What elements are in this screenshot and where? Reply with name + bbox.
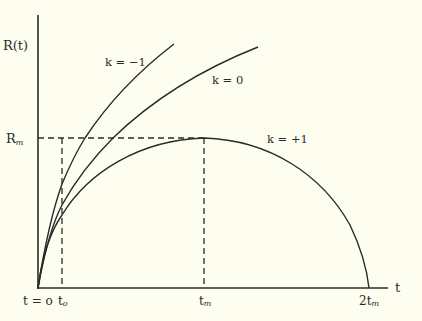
curve-label-k-plus-1: k = +1 xyxy=(267,132,308,146)
curve-label-k-0: k = 0 xyxy=(212,73,243,87)
x-tick-t-zero: t = o xyxy=(23,294,53,308)
x-axis-label: t xyxy=(395,280,401,295)
x-tick-t0: to xyxy=(58,294,68,308)
x-tick-tm: tm xyxy=(199,294,212,308)
curve-label-k-minus-1: k = −1 xyxy=(105,55,146,69)
friedmann-scale-factor-diagram: R(t) Rm k = −1 k = 0 k = +1 t = o to tm … xyxy=(0,0,422,321)
curve-k-minus-1 xyxy=(38,44,174,288)
x-tick-2tm: 2tm xyxy=(359,294,379,308)
y-axis-label: R(t) xyxy=(3,38,28,53)
diagram-svg: R(t) Rm k = −1 k = 0 k = +1 t = o to tm … xyxy=(0,0,422,321)
rm-label: Rm xyxy=(6,131,24,147)
